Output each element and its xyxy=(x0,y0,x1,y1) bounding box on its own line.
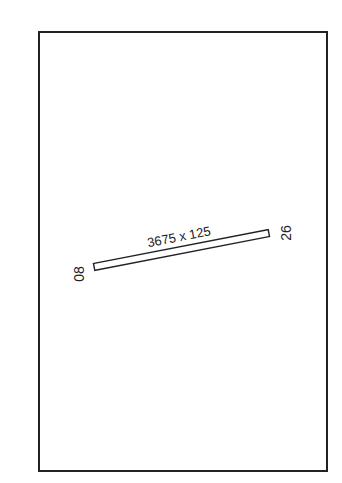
runway-end-26-label: 26 xyxy=(278,225,294,241)
runway-end-08-label: 08 xyxy=(71,266,87,282)
runway-diagram: 3675 x 125 08 26 xyxy=(0,0,342,483)
